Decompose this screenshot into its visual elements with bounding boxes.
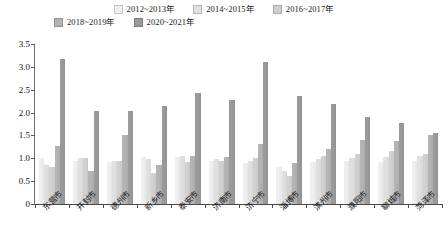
plot-area: 00.51.01.52.02.53.03.5 (34, 44, 442, 205)
legend-swatch-icon (54, 18, 63, 27)
bar-group (272, 44, 306, 204)
bar (195, 93, 200, 204)
bar-group (408, 44, 442, 204)
bar-group (103, 44, 137, 204)
bar (94, 111, 99, 204)
bar-group (69, 44, 103, 204)
legend-swatch-icon (273, 5, 282, 14)
bar-group (340, 44, 374, 204)
y-axis-tick-label: 1.0 (19, 154, 30, 163)
legend-label: 2020~2021年 (147, 17, 196, 28)
bar (128, 111, 133, 204)
y-axis-tick-label: 2.0 (19, 108, 30, 117)
bar-group (239, 44, 273, 204)
y-axis-tick-label: 0.5 (19, 177, 30, 186)
y-axis-tick-label: 3.0 (19, 62, 30, 71)
x-axis-tick (442, 204, 443, 208)
legend-label: 2014~2015年 (206, 4, 255, 15)
bar (229, 100, 234, 204)
legend-label: 2016~2017年 (286, 4, 335, 15)
bar (60, 59, 65, 204)
y-axis-tick-label: 3.5 (19, 40, 30, 49)
x-axis-category-labels: 东营市开封市德州市新乡市泰安市济南市济宁市淄博市滨州市濮阳市聊城市菏泽市 (34, 206, 441, 249)
legend-item-2020-2021: 2020~2021年 (134, 17, 196, 28)
bar-groups-container (35, 44, 442, 204)
bar (263, 62, 268, 204)
bar (162, 106, 167, 204)
y-axis-tick-label: 1.5 (19, 131, 30, 140)
legend-swatch-icon (193, 5, 202, 14)
bar-group (171, 44, 205, 204)
bar (297, 96, 302, 204)
legend-label: 2018~2019年 (67, 17, 116, 28)
bar-group (374, 44, 408, 204)
legend-item-2016-2017: 2016~2017年 (273, 4, 335, 15)
bar (331, 104, 336, 204)
chart-legend: 2012~2013年 2014~2015年 2016~2017年 2018~20… (0, 4, 448, 28)
legend-item-2018-2019: 2018~2019年 (54, 17, 116, 28)
bar-group (205, 44, 239, 204)
legend-label: 2012~2013年 (127, 4, 176, 15)
y-axis-tick-label: 0 (26, 200, 31, 209)
legend-item-2012-2013: 2012~2013年 (114, 4, 176, 15)
legend-row-1: 2012~2013年 2014~2015年 2016~2017年 (0, 4, 448, 15)
legend-item-2014-2015: 2014~2015年 (193, 4, 255, 15)
legend-swatch-icon (114, 5, 123, 14)
legend-swatch-icon (134, 18, 143, 27)
y-axis-tick-label: 2.5 (19, 85, 30, 94)
bar-group (306, 44, 340, 204)
legend-row-2: 2018~2019年 2020~2021年 (0, 17, 448, 28)
bar-group (137, 44, 171, 204)
bar-chart: 2012~2013年 2014~2015年 2016~2017年 2018~20… (0, 0, 448, 249)
bar-group (35, 44, 69, 204)
